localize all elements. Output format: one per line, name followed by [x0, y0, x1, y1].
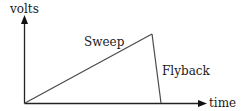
- y-axis-label: volts: [9, 2, 39, 16]
- flyback-line: [152, 34, 161, 103]
- sweep-segment: Sweep: [25, 34, 152, 103]
- sweep-label: Sweep: [84, 35, 125, 49]
- sawtooth-diagram: volts time Sweep Flyback: [0, 0, 241, 111]
- x-axis-arrow-icon: [198, 100, 207, 107]
- flyback-label: Flyback: [162, 64, 211, 78]
- y-axis: volts: [9, 2, 39, 104]
- y-axis-arrow-icon: [21, 15, 28, 24]
- x-axis: time: [25, 96, 237, 110]
- x-axis-label: time: [209, 96, 236, 110]
- flyback-segment: Flyback: [152, 34, 211, 103]
